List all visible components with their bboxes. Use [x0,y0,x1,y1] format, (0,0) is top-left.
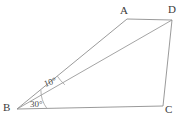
vertex-label-b: B [3,102,10,113]
segment-AD [127,19,172,20]
segment-BA [17,19,127,109]
vertex-label-c: C [165,104,172,115]
vertex-label-d: D [168,4,176,15]
angle-label-30-degrees: 30° [30,100,43,109]
segment-BD-diagonal [17,20,172,109]
geometry-figure: A B C D 10° 30° [0,0,193,122]
vertex-label-a: A [120,5,128,16]
segment-DC [163,20,172,106]
